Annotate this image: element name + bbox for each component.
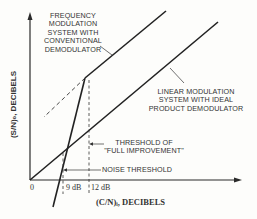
full-improvement-line: "FULL IMPROVEMENT"	[104, 147, 184, 155]
y-axis-label: (S/N)₀, DECIBELS	[9, 60, 18, 150]
linear-label-line: PRODUCT DEMODULATOR	[146, 105, 246, 113]
x-axis-label: (C/N)ᵢ, DECIBELS	[96, 197, 165, 207]
linear-label-leader	[170, 68, 184, 83]
noise-threshold-label: NOISE THRESHOLD	[102, 166, 172, 174]
x-axis-arrow-icon	[234, 178, 242, 183]
fm-extrapolation-dashed	[44, 78, 85, 117]
fm-system-label: FREQUENCY MODULATION SYSTEM WITH CONVENT…	[38, 12, 108, 54]
origin-label: 0	[30, 183, 34, 192]
full-improvement-arrowhead-icon	[89, 142, 93, 145]
y-axis-arrow-icon	[28, 12, 33, 20]
tick-12db: 12 dB	[91, 183, 110, 192]
tick-9db: 9 dB	[66, 183, 81, 192]
linear-system-label: LINEAR MODULATION SYSTEM WITH IDEAL PROD…	[146, 88, 246, 113]
fm-label-line: DEMODULATOR	[38, 46, 108, 54]
full-improvement-label: THRESHOLD OF "FULL IMPROVEMENT"	[104, 139, 184, 156]
noise-threshold-arrowhead-icon	[63, 168, 67, 171]
diagram-fm-threshold: FREQUENCY MODULATION SYSTEM WITH CONVENT…	[0, 0, 257, 219]
